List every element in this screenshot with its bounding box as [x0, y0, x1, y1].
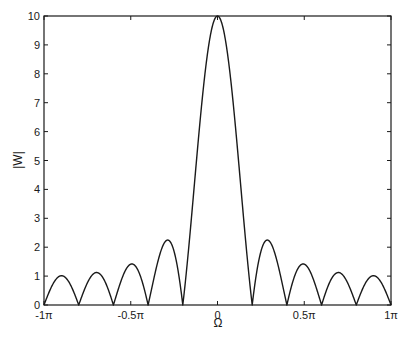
plot-area-border — [44, 16, 391, 305]
y-tick-label: 6 — [34, 126, 40, 138]
y-tick-label: 10 — [28, 10, 40, 22]
y-tick-label: 5 — [34, 155, 40, 167]
y-tick-label: 3 — [34, 212, 40, 224]
y-axis-ticks: 012345678910 — [28, 10, 391, 311]
chart: 012345678910 -1π-0.5π00.5π1π |W| Ω — [0, 0, 420, 344]
y-tick-label: 8 — [34, 68, 40, 80]
x-tick-label: -1π — [35, 309, 53, 321]
y-tick-label: 7 — [34, 97, 40, 109]
plot-frame — [44, 16, 391, 305]
y-axis-label: |W| — [11, 151, 25, 169]
y-tick-label: 9 — [34, 39, 40, 51]
y-tick-label: 1 — [34, 270, 40, 282]
x-tick-label: 0.5π — [293, 309, 316, 321]
magnitude-curve — [44, 16, 391, 305]
y-tick-label: 4 — [34, 183, 40, 195]
x-axis-label: Ω — [214, 316, 223, 330]
x-tick-label: 1π — [384, 309, 398, 321]
y-tick-label: 2 — [34, 241, 40, 253]
x-tick-label: -0.5π — [117, 309, 144, 321]
